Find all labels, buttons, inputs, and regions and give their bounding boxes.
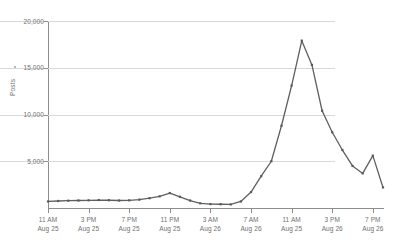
line-chart: Posts 20,00015,00010,0005,000 11 AMAug 2…	[0, 0, 393, 249]
data-point	[138, 198, 140, 200]
data-point	[108, 199, 110, 201]
data-point	[67, 200, 69, 202]
data-point	[209, 203, 211, 205]
data-point	[179, 196, 181, 198]
series-markers	[47, 40, 384, 206]
data-point	[270, 160, 272, 162]
data-point	[98, 199, 100, 201]
data-point	[362, 172, 364, 174]
data-point	[291, 84, 293, 86]
data-point	[331, 131, 333, 133]
data-point	[351, 165, 353, 167]
data-point	[148, 197, 150, 199]
data-point	[47, 200, 49, 202]
data-point	[199, 202, 201, 204]
data-point	[240, 200, 242, 202]
data-point	[118, 199, 120, 201]
data-point	[382, 186, 384, 188]
data-point	[260, 175, 262, 177]
data-point	[301, 40, 303, 42]
data-point	[230, 203, 232, 205]
data-point	[341, 149, 343, 151]
data-point	[88, 199, 90, 201]
data-point	[159, 195, 161, 197]
data-point	[77, 199, 79, 201]
data-point	[189, 199, 191, 201]
series-layer	[0, 0, 393, 249]
series-line-posts	[48, 41, 383, 205]
data-point	[57, 200, 59, 202]
data-point	[280, 125, 282, 127]
data-point	[250, 191, 252, 193]
data-point	[372, 155, 374, 157]
data-point	[128, 199, 130, 201]
data-point	[219, 203, 221, 205]
data-point	[321, 110, 323, 112]
data-point	[311, 64, 313, 66]
data-point	[169, 192, 171, 194]
